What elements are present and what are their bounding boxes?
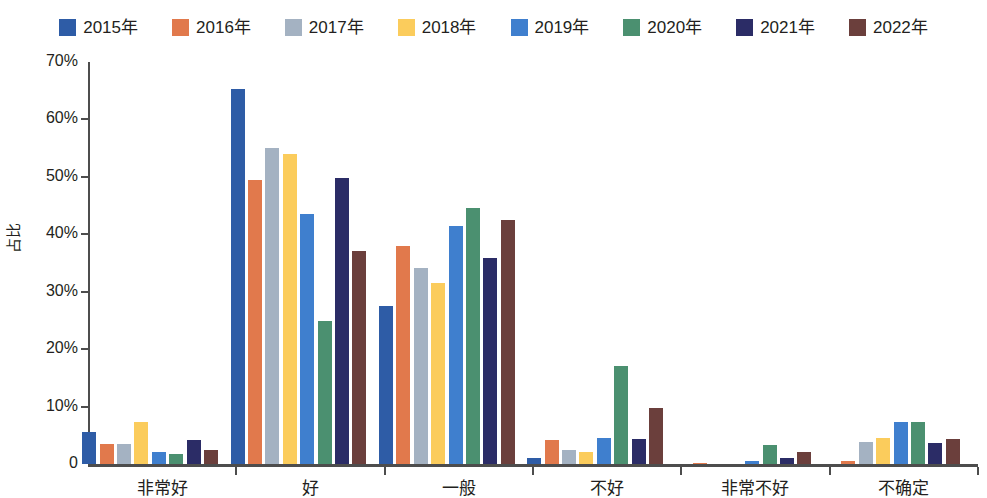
bar xyxy=(117,444,131,464)
y-tick-mark xyxy=(81,233,89,235)
x-tick-mark xyxy=(829,467,831,475)
bar xyxy=(579,452,593,464)
bar xyxy=(318,321,332,464)
bar xyxy=(204,450,218,464)
bar xyxy=(841,461,855,464)
bar xyxy=(396,246,410,464)
bar xyxy=(501,220,515,464)
bar xyxy=(859,442,873,464)
x-tick-label: 非常不好 xyxy=(681,480,829,497)
bar xyxy=(231,89,245,464)
x-tick-mark xyxy=(977,467,979,475)
x-tick-label: 不确定 xyxy=(830,480,978,497)
bar xyxy=(248,180,262,464)
bar xyxy=(614,366,628,464)
bar xyxy=(545,440,559,464)
y-axis-line xyxy=(88,62,90,465)
x-tick-mark xyxy=(532,467,534,475)
x-tick-label: 非常好 xyxy=(88,480,236,497)
bar xyxy=(483,258,497,464)
bar xyxy=(911,422,925,464)
bar xyxy=(352,251,366,464)
y-tick-label: 10% xyxy=(46,398,78,414)
y-tick-label: 40% xyxy=(46,225,78,241)
bar xyxy=(300,214,314,464)
bar xyxy=(527,458,541,464)
y-tick-mark xyxy=(81,176,89,178)
bar xyxy=(449,226,463,464)
bar xyxy=(431,283,445,464)
x-tick-mark xyxy=(235,467,237,475)
bar-chart: 2015年2016年2017年2018年2019年2020年2021年2022年… xyxy=(0,0,987,498)
bar xyxy=(632,439,646,464)
bar xyxy=(649,408,663,464)
bar xyxy=(780,458,794,464)
bar xyxy=(928,443,942,464)
bar xyxy=(693,463,707,464)
bar xyxy=(946,439,960,464)
bar xyxy=(763,445,777,464)
x-tick-label: 一般 xyxy=(385,480,533,497)
bar xyxy=(379,306,393,464)
bar xyxy=(283,154,297,464)
y-tick-label: 0 xyxy=(69,455,78,471)
bar xyxy=(169,454,183,464)
y-tick-label: 30% xyxy=(46,283,78,299)
x-tick-mark xyxy=(680,467,682,475)
y-tick-mark xyxy=(81,118,89,120)
bar xyxy=(876,438,890,464)
bar xyxy=(466,208,480,464)
x-tick-label: 不好 xyxy=(533,480,681,497)
plot-area: 010%20%30%40%50%60%70%非常好好一般不好非常不好不确定 xyxy=(0,0,987,498)
y-tick-mark xyxy=(81,291,89,293)
bar xyxy=(134,422,148,464)
x-tick-mark xyxy=(384,467,386,475)
y-tick-label: 70% xyxy=(46,53,78,69)
bar xyxy=(894,422,908,464)
x-tick-label: 好 xyxy=(236,480,384,497)
bar xyxy=(152,452,166,464)
y-tick-label: 20% xyxy=(46,340,78,356)
bar xyxy=(335,178,349,464)
y-tick-mark xyxy=(81,406,89,408)
bar xyxy=(562,450,576,464)
bar xyxy=(187,440,201,464)
bar xyxy=(745,461,759,464)
y-tick-label: 50% xyxy=(46,168,78,184)
bar xyxy=(100,444,114,464)
bar xyxy=(265,148,279,464)
y-tick-label: 60% xyxy=(46,110,78,126)
bar xyxy=(797,452,811,464)
bar xyxy=(414,268,428,464)
y-tick-mark xyxy=(81,348,89,350)
bar xyxy=(82,432,96,464)
bar xyxy=(597,438,611,464)
